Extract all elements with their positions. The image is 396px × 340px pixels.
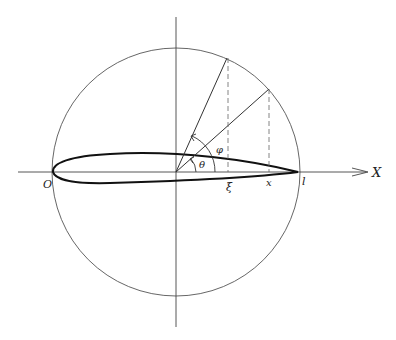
label-x-axis: X [371, 165, 382, 180]
label-phi: φ [216, 144, 223, 155]
label-x-point: x [266, 177, 272, 188]
label-chord-end: l [302, 175, 306, 188]
label-theta: θ [199, 159, 205, 170]
label-origin: O [43, 178, 52, 191]
airfoil-profile [53, 153, 298, 183]
label-xi: ξ [226, 181, 233, 194]
airfoil-diagram: O l X ξ x θ φ [0, 0, 396, 340]
